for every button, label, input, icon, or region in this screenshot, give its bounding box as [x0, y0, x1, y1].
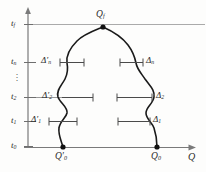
- t-axis-ticks: [24, 25, 36, 147]
- figure-canvas: tf tn ··· t2 t1 t0 Qf Q′0 Q0 Q Δ′n Δn Δ′…: [0, 0, 206, 172]
- curve-left-branch: [58, 27, 103, 147]
- q-axis-arrow-icon: [189, 145, 197, 151]
- curve-right-branch: [103, 27, 157, 147]
- point-label-q0: Q0: [151, 152, 161, 162]
- increment-label-dn: Δn: [146, 56, 154, 66]
- tick-label-tn: tn: [11, 57, 16, 67]
- tick-label-t0: t0: [11, 141, 16, 151]
- bar-d2: [117, 94, 152, 102]
- qf-point-dot: [100, 24, 105, 29]
- tick-label-tf: tf: [11, 19, 15, 29]
- increment-bars: [49, 59, 152, 126]
- t-axis-arrow-icon: [25, 7, 31, 14]
- increment-label-d2: Δ2: [156, 91, 164, 101]
- bar-dn: [120, 59, 143, 67]
- t-axis-group: [25, 7, 31, 148]
- increment-label-d2-prime: Δ′2: [42, 91, 52, 101]
- tick-label-t1: t1: [11, 116, 16, 126]
- increment-label-d1-prime: Δ′1: [31, 115, 41, 125]
- point-label-q0-prime: Q′0: [55, 152, 67, 162]
- increment-label-d1: Δ1: [153, 115, 161, 125]
- q-axis-group: [24, 145, 196, 151]
- bar-d1: [118, 118, 150, 126]
- bar-dn-prime: [60, 59, 84, 67]
- increment-label-dn-prime: Δ′n: [41, 56, 51, 66]
- bar-d2-prime: [62, 94, 93, 102]
- q-axis-label: Q: [188, 152, 195, 162]
- q0-point-dot: [154, 144, 159, 149]
- tick-ellipsis: ···: [13, 73, 21, 83]
- figure-svg: [0, 0, 206, 172]
- q0prime-point-dot: [60, 144, 65, 149]
- trajectory-curve-group: [58, 24, 160, 149]
- tick-label-t2: t2: [11, 92, 16, 102]
- point-label-qf: Qf: [96, 10, 105, 20]
